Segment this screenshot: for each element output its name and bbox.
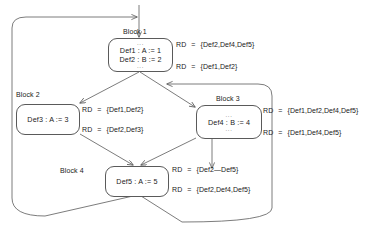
rd-out-block4-keyword: RD [172,186,182,193]
node-block3[interactable]: ... Def4 : B := 4 ... [196,105,262,139]
block-title-block3: Block 3 [216,95,240,102]
rd-out-block2-set: {Def2,Def3} [107,126,144,133]
block-title-block4: Block 4 [60,167,84,174]
rd-in-block3-equals: = [278,107,282,114]
rd-in-block1-set: {Def2,Def4,Def5} [201,41,255,48]
edge-block2-to-block4 [80,134,133,165]
node-block4[interactable]: Def5 : A := 5 [105,166,169,197]
rd-in-block4-set: {Def2—Def5} [197,166,239,173]
rd-out-block2-equals: = [97,126,101,133]
edge-block3-to-block4 [141,138,196,165]
block1-statement-1: Def1 : A := 1 [120,46,161,55]
rd-in-block2-set: {Def1,Def2} [107,106,144,113]
rd-out-block4-set: {Def2,Def4,Def5} [197,186,251,193]
rd-in-block3: RD = {Def1,Def2,Def4,Def5} [263,107,358,114]
rd-out-block1: RD = {Def1,Def2} [176,63,237,70]
rd-in-block2: RD = {Def1,Def2} [82,106,143,113]
rd-in-block2-equals: = [97,106,101,113]
rd-in-block2-keyword: RD [82,106,92,113]
block1-bottom-ellipsis: ... [137,64,144,69]
diagram-canvas: Block 1 ... Def1 : A := 1 Def2 : B := 2 … [0,0,374,232]
rd-in-block3-keyword: RD [263,107,273,114]
block2-statement-1: Def3 : A := 3 [27,115,68,124]
rd-in-block3-set: {Def1,Def2,Def4,Def5} [288,107,359,114]
edge-block1-to-block2 [80,72,139,103]
rd-out-block3-keyword: RD [263,129,273,136]
block-title-block2: Block 2 [16,91,40,98]
rd-in-block4: RD = {Def2—Def5} [172,166,238,173]
rd-in-block1-keyword: RD [176,41,186,48]
rd-out-block1-set: {Def1,Def2} [201,63,238,70]
rd-in-block1: RD = {Def2,Def4,Def5} [176,41,254,48]
rd-out-block2-keyword: RD [82,126,92,133]
rd-out-block4: RD = {Def2,Def4,Def5} [172,186,250,193]
edge-block1-to-block3 [140,72,195,107]
rd-out-block2: RD = {Def2,Def3} [82,126,143,133]
block3-bottom-ellipsis: ... [226,127,233,132]
rd-out-block4-equals: = [187,186,191,193]
rd-out-block3-set: {Def1,Def4,Def5} [288,129,342,136]
block4-statement-1: Def5 : A := 5 [116,177,157,186]
block-title-block1: Block 1 [123,28,147,35]
rd-out-block1-keyword: RD [176,63,186,70]
rd-out-block1-equals: = [191,63,195,70]
rd-in-block4-equals: = [187,166,191,173]
node-block2[interactable]: Def3 : A := 3 [16,104,80,135]
rd-out-block3: RD = {Def1,Def4,Def5} [263,129,341,136]
rd-in-block1-equals: = [191,41,195,48]
rd-out-block3-equals: = [278,129,282,136]
rd-in-block4-keyword: RD [172,166,182,173]
node-block1[interactable]: ... Def1 : A := 1 Def2 : B := 2 ... [108,38,173,72]
